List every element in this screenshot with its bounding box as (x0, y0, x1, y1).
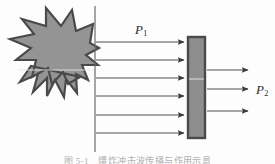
transmitted-pressure-subscript: 2 (264, 89, 268, 98)
incident-pressure-subscript: 1 (143, 29, 147, 38)
explosion-starburst (10, 8, 99, 97)
barrier-plate (188, 37, 205, 138)
transmitted-pressure-symbol: P (256, 82, 264, 97)
figure-caption: 图 5-1 爆炸冲击波传播与作用示意 (0, 154, 275, 164)
transmitted-arrow-group (207, 70, 248, 111)
incident-pressure-label: P1 (135, 23, 147, 38)
physics-figure: P1 P2 图 5-1 爆炸冲击波传播与作用示意 (0, 0, 275, 164)
incident-arrow-group (96, 42, 184, 133)
transmitted-pressure-label: P2 (256, 83, 268, 98)
incident-pressure-symbol: P (135, 22, 143, 37)
